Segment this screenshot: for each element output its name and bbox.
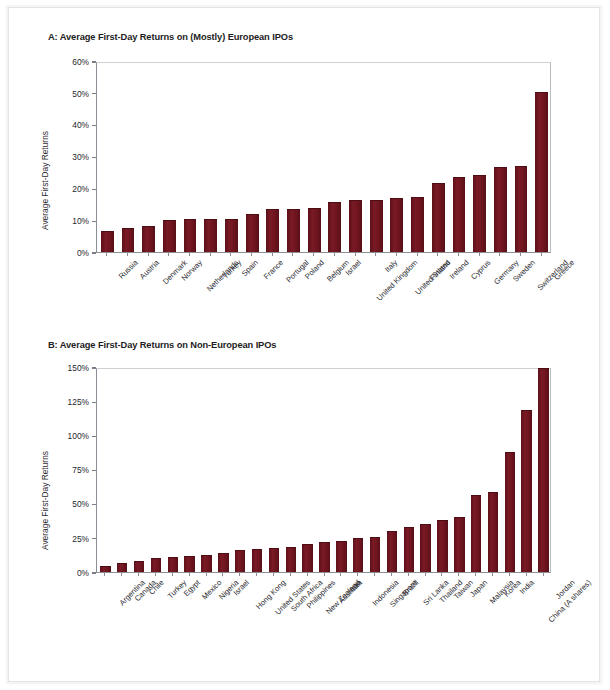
y-tick-b-0: 0% bbox=[52, 568, 96, 578]
x-tick-mark bbox=[458, 573, 459, 576]
bar bbox=[454, 517, 464, 572]
panel-b-y-axis-label: Average First-Day Returns bbox=[40, 451, 50, 550]
panel-b-title: B: Average First-Day Returns on Non-Euro… bbox=[48, 340, 276, 350]
x-tick-mark bbox=[492, 573, 493, 576]
x-tick-mark bbox=[222, 573, 223, 576]
y-tick-b-1: 25% bbox=[52, 534, 96, 544]
bar bbox=[302, 544, 312, 572]
x-tick-mark bbox=[509, 573, 510, 576]
y-tick-b-5: 125% bbox=[52, 397, 96, 407]
bar bbox=[252, 549, 262, 572]
y-tick-mark bbox=[92, 436, 96, 437]
y-tick-mark bbox=[92, 402, 96, 403]
bar bbox=[184, 556, 194, 572]
y-tick-mark bbox=[92, 504, 96, 505]
x-tick-mark bbox=[475, 573, 476, 576]
y-tick-b-2: 50% bbox=[52, 500, 96, 510]
bar bbox=[505, 452, 515, 572]
x-tick-label: Brazil bbox=[400, 578, 420, 598]
y-tick-label: 25% bbox=[72, 535, 92, 543]
x-tick-mark bbox=[441, 573, 442, 576]
bar bbox=[134, 561, 144, 572]
x-tick-mark bbox=[189, 573, 190, 576]
y-tick-mark bbox=[92, 470, 96, 471]
bar bbox=[201, 555, 211, 572]
bar bbox=[336, 541, 346, 572]
x-tick-mark bbox=[121, 573, 122, 576]
y-tick-mark bbox=[92, 367, 96, 368]
x-tick-mark bbox=[357, 573, 358, 576]
y-tick-label: 0% bbox=[77, 569, 92, 577]
y-tick-label: 125% bbox=[68, 398, 92, 406]
x-tick-mark bbox=[206, 573, 207, 576]
bar bbox=[521, 410, 531, 572]
y-tick-label: 50% bbox=[72, 500, 92, 508]
bar bbox=[151, 558, 161, 572]
panel-b: B: Average First-Day Returns on Non-Euro… bbox=[0, 0, 610, 690]
x-tick-mark bbox=[374, 573, 375, 576]
x-tick-mark bbox=[526, 573, 527, 576]
x-tick-mark bbox=[324, 573, 325, 576]
x-tick-mark bbox=[307, 573, 308, 576]
figure-page: A: Average First-Day Returns on (Mostly)… bbox=[0, 0, 610, 690]
x-tick-mark bbox=[104, 573, 105, 576]
bar bbox=[370, 537, 380, 572]
bar bbox=[488, 492, 498, 572]
x-tick-label: India bbox=[518, 578, 536, 596]
bar bbox=[168, 557, 178, 572]
x-tick-mark bbox=[155, 573, 156, 576]
y-tick-b-6: 150% bbox=[52, 363, 96, 373]
y-tick-label: 150% bbox=[68, 364, 92, 372]
x-tick-mark bbox=[391, 573, 392, 576]
x-tick-mark bbox=[138, 573, 139, 576]
panel-b-plot-area bbox=[96, 368, 551, 573]
bar bbox=[117, 563, 127, 572]
x-tick-mark bbox=[408, 573, 409, 576]
bar bbox=[286, 547, 296, 572]
x-tick-mark bbox=[340, 573, 341, 576]
x-tick-mark bbox=[425, 573, 426, 576]
x-tick-mark bbox=[172, 573, 173, 576]
bar bbox=[471, 495, 481, 572]
bar bbox=[269, 548, 279, 572]
bar bbox=[100, 566, 110, 572]
x-tick-mark bbox=[256, 573, 257, 576]
bar bbox=[387, 531, 397, 572]
y-tick-b-3: 75% bbox=[52, 466, 96, 476]
y-tick-b-4: 100% bbox=[52, 431, 96, 441]
bar bbox=[235, 550, 245, 572]
bar bbox=[218, 553, 228, 572]
x-tick-mark bbox=[290, 573, 291, 576]
y-tick-label: 100% bbox=[68, 432, 92, 440]
x-tick-mark bbox=[239, 573, 240, 576]
bar bbox=[404, 527, 414, 572]
bar bbox=[319, 542, 329, 572]
x-tick-mark bbox=[543, 573, 544, 576]
x-tick-mark bbox=[273, 573, 274, 576]
bar bbox=[353, 538, 363, 572]
bar bbox=[538, 368, 548, 572]
y-tick-label: 75% bbox=[72, 466, 92, 474]
bar bbox=[437, 520, 447, 572]
y-tick-mark bbox=[92, 572, 96, 573]
y-tick-mark bbox=[92, 538, 96, 539]
bar bbox=[420, 524, 430, 572]
